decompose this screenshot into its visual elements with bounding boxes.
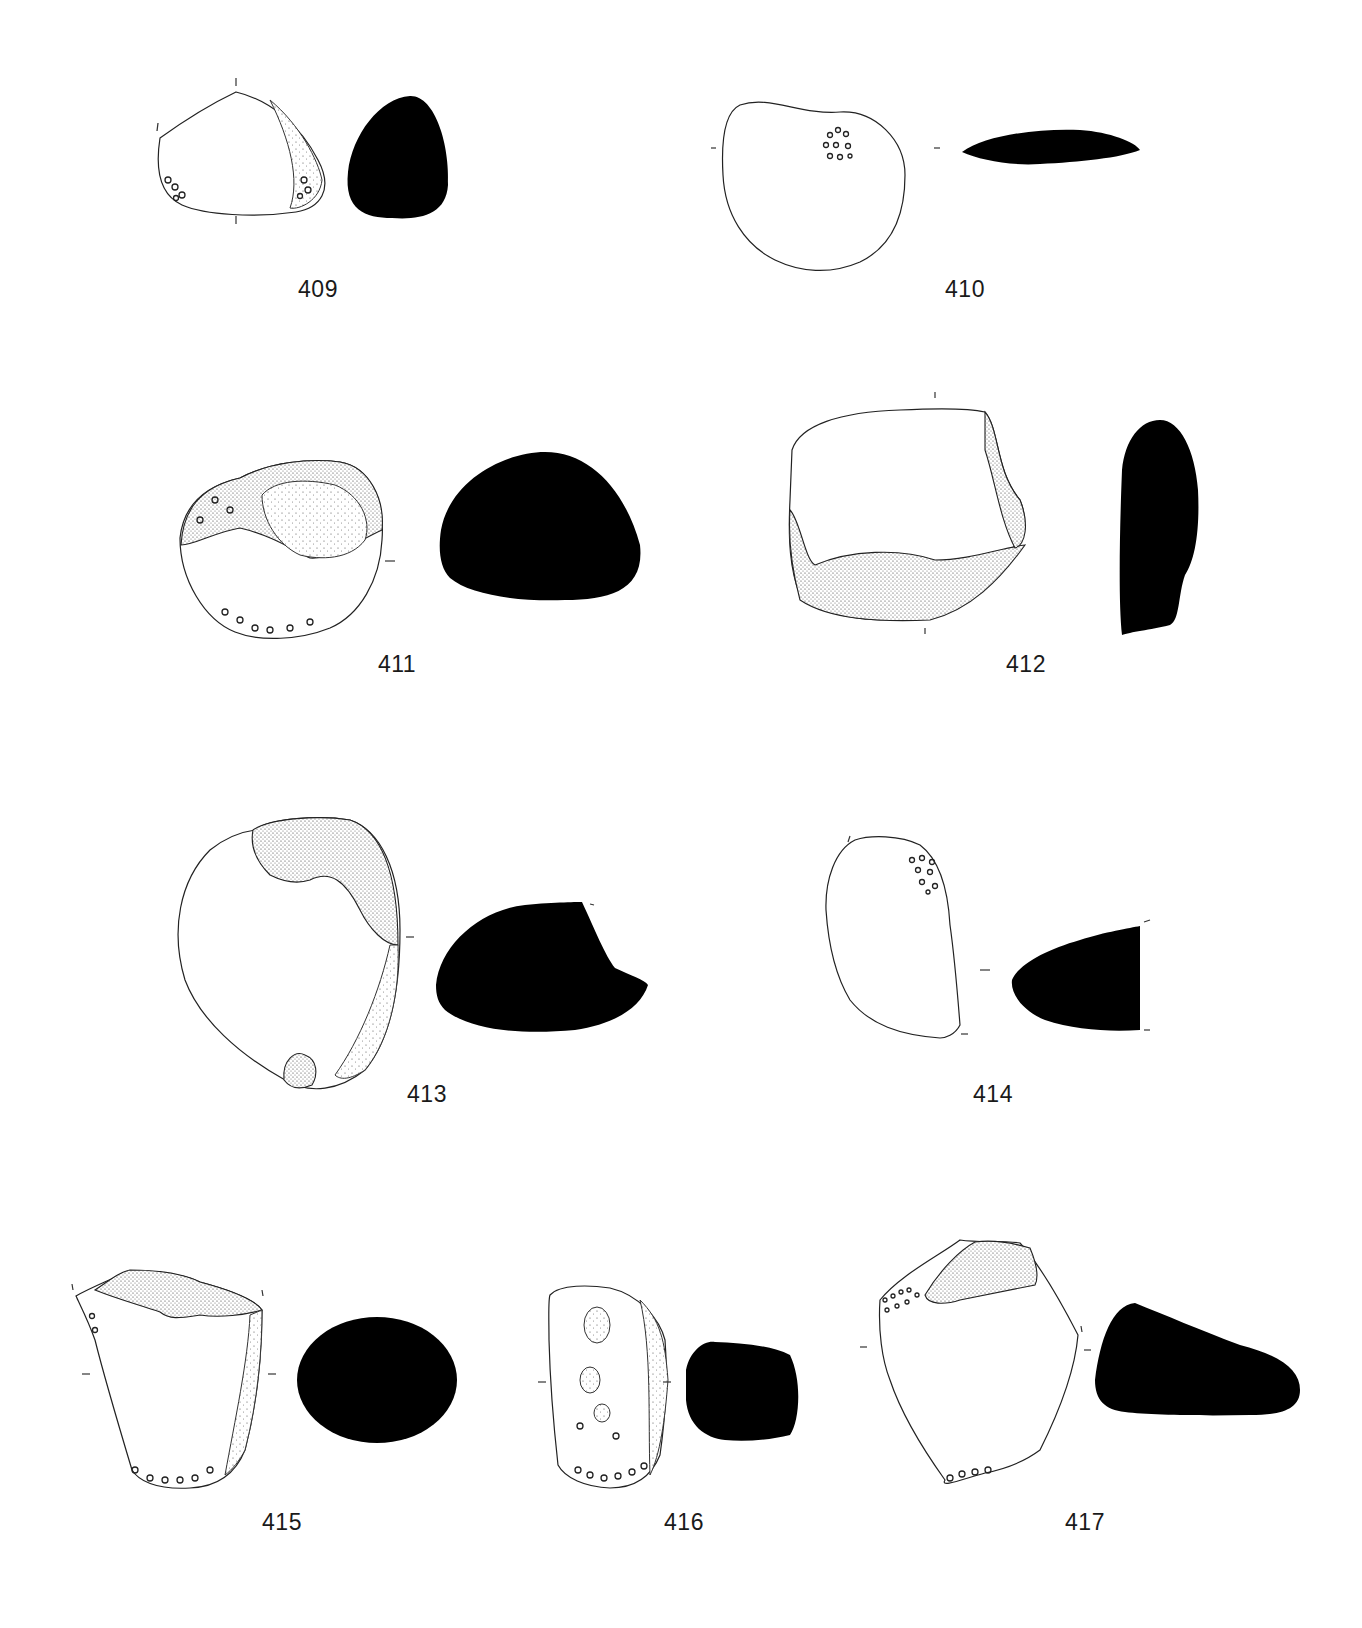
artifact-417: [860, 1240, 1300, 1483]
artifact-413: [178, 818, 648, 1089]
artifact-411: [180, 452, 640, 638]
artifact-414-section: [1012, 926, 1140, 1031]
artifact-410: [711, 102, 1140, 270]
artifact-410-plan: [723, 102, 905, 270]
artifact-410-section: [962, 130, 1140, 165]
artifact-label-415: 415: [262, 1509, 302, 1536]
artifact-411-section: [440, 452, 641, 600]
artifact-416: [538, 1286, 798, 1488]
artifact-409-section: [348, 96, 449, 218]
artifact-414: [826, 836, 1150, 1038]
figure-plate: 409 410 411 412 413 414 415 416 417: [0, 0, 1362, 1628]
artifact-label-412: 412: [1006, 651, 1046, 678]
artifact-415: [72, 1270, 457, 1488]
artifact-414-plan: [826, 837, 960, 1038]
artifact-label-414: 414: [973, 1081, 1013, 1108]
artifact-label-409: 409: [298, 276, 338, 303]
artifact-label-413: 413: [407, 1081, 447, 1108]
artifact-409: [157, 78, 448, 224]
artifact-413-section: [436, 902, 648, 1032]
artifact-label-416: 416: [664, 1509, 704, 1536]
artifact-label-411: 411: [378, 651, 416, 678]
artifact-drawings: [0, 0, 1362, 1628]
artifact-417-section: [1095, 1303, 1300, 1415]
artifact-416-section: [686, 1342, 798, 1441]
artifact-label-410: 410: [945, 276, 985, 303]
artifact-412: [789, 392, 1198, 635]
artifact-415-section: [297, 1317, 457, 1443]
artifact-label-417: 417: [1065, 1509, 1105, 1536]
artifact-412-section: [1120, 420, 1199, 635]
